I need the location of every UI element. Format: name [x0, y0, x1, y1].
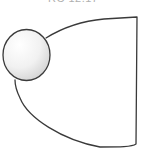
sketch-diagram — [0, 0, 142, 155]
sphere — [3, 30, 50, 81]
